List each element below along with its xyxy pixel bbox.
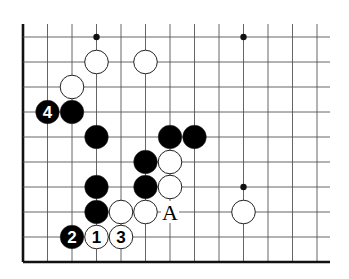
black-stone bbox=[183, 125, 207, 149]
white-stone bbox=[158, 150, 182, 174]
stone-move-number: 3 bbox=[116, 228, 125, 247]
black-stone bbox=[85, 175, 109, 199]
svg-text:A: A bbox=[162, 200, 178, 225]
white-stone bbox=[232, 200, 256, 224]
star-point-icon bbox=[240, 34, 246, 40]
stone-move-number: 4 bbox=[43, 103, 53, 122]
white-stone-1: 1 bbox=[85, 225, 109, 249]
go-board-diagram: 4213 A bbox=[0, 0, 349, 279]
white-stone-3: 3 bbox=[109, 225, 133, 249]
white-stone bbox=[60, 75, 84, 99]
black-stone bbox=[60, 100, 84, 124]
stone-move-number: 1 bbox=[92, 228, 101, 247]
white-stone bbox=[134, 50, 158, 74]
star-point-icon bbox=[240, 184, 246, 190]
point-label-A: A bbox=[161, 200, 179, 225]
black-stone bbox=[85, 125, 109, 149]
stone-move-number: 2 bbox=[67, 228, 76, 247]
white-stone bbox=[134, 200, 158, 224]
black-stone-4: 4 bbox=[36, 100, 60, 124]
black-stone bbox=[85, 200, 109, 224]
black-stone bbox=[158, 125, 182, 149]
point-labels-layer: A bbox=[161, 200, 179, 225]
star-point-icon bbox=[93, 34, 99, 40]
white-stone bbox=[158, 175, 182, 199]
black-stone-2: 2 bbox=[60, 225, 84, 249]
white-stone bbox=[109, 200, 133, 224]
white-stone bbox=[85, 50, 109, 74]
black-stone bbox=[134, 150, 158, 174]
black-stone bbox=[134, 175, 158, 199]
